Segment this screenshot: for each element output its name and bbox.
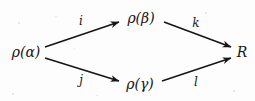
node-rho-gamma: ρ(γ): [126, 77, 154, 91]
commutative-diagram-figure: ρ(α) ρ(β) ρ(γ) R i k j l: [0, 0, 255, 101]
node-r: R: [237, 45, 248, 59]
node-rho-alpha: ρ(α): [12, 45, 41, 59]
scan-speck: [74, 48, 75, 49]
scan-speck: [205, 12, 207, 14]
arrow-label-i: i: [79, 15, 83, 27]
scan-speck: [186, 66, 187, 67]
scan-speck: [96, 95, 98, 96]
node-rho-beta: ρ(β): [127, 11, 154, 25]
scan-speck: [12, 93, 14, 95]
arrow-label-k: k: [192, 17, 199, 29]
arrow-label-l: l: [194, 76, 198, 88]
scan-speck: [18, 22, 20, 24]
arrow-label-j: j: [79, 74, 83, 86]
scan-speck: [55, 16, 57, 17]
scan-speck: [233, 90, 235, 92]
